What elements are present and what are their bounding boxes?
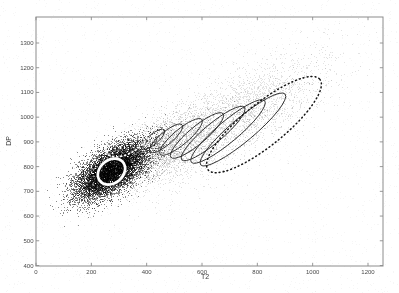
x-tick-label: 200 bbox=[86, 269, 97, 275]
y-tick-label: 400 bbox=[23, 263, 34, 269]
y-tick-label: 800 bbox=[23, 164, 34, 170]
white-dotted-ellipse bbox=[101, 120, 153, 164]
x-tick-label: 800 bbox=[252, 269, 263, 275]
y-tick-label: 600 bbox=[23, 213, 34, 219]
axis-tick-labels: 0200400600800100012004005006007008009001… bbox=[20, 40, 375, 275]
y-tick-label: 1300 bbox=[20, 40, 34, 46]
x-tick-label: 0 bbox=[34, 269, 38, 275]
y-tick-label: 1000 bbox=[20, 114, 34, 120]
y-tick-label: 700 bbox=[23, 188, 34, 194]
y-tick-label: 900 bbox=[23, 139, 34, 145]
figure: 0200400600800100012004005006007008009001… bbox=[0, 0, 399, 293]
iteration-ellipse-7 bbox=[193, 85, 292, 174]
y-tick-label: 1100 bbox=[21, 89, 35, 95]
plot-svg: 0200400600800100012004005006007008009001… bbox=[0, 0, 399, 293]
x-axis-label: T2 bbox=[201, 273, 209, 280]
fitted-ellipses bbox=[93, 63, 333, 190]
final-ellipse-white bbox=[93, 153, 131, 190]
iteration-ellipse-2 bbox=[146, 120, 186, 157]
y-axis-label: DP bbox=[5, 136, 12, 146]
x-tick-label: 1000 bbox=[306, 269, 320, 275]
initial-ellipse-dashed bbox=[195, 63, 333, 186]
x-tick-label: 400 bbox=[142, 269, 153, 275]
y-tick-label: 500 bbox=[23, 238, 34, 244]
plot-box bbox=[36, 17, 383, 266]
iteration-ellipse-3 bbox=[155, 114, 206, 160]
y-tick-label: 1200 bbox=[20, 65, 34, 71]
axis-ticks bbox=[36, 17, 383, 266]
x-tick-label: 1200 bbox=[361, 269, 375, 275]
